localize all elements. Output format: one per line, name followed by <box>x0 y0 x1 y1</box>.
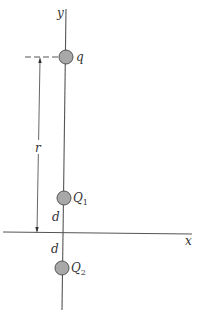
d-upper-label: d <box>52 210 60 224</box>
x-axis-label: x <box>185 234 192 248</box>
charge-q-label: q <box>76 50 84 64</box>
charge-diagram: r q Q1 Q2 d d y x <box>0 0 205 321</box>
charge-Q2 <box>55 261 69 275</box>
x-axis <box>3 232 192 234</box>
charge-Q1 <box>57 191 71 205</box>
charge-q <box>59 50 73 64</box>
r-arrowhead-up-icon <box>38 57 41 63</box>
charge-Q2-label: Q2 <box>71 261 86 277</box>
d-lower-label: d <box>51 242 59 256</box>
y-axis-label: y <box>56 6 64 20</box>
charge-Q1-label: Q1 <box>73 191 88 207</box>
